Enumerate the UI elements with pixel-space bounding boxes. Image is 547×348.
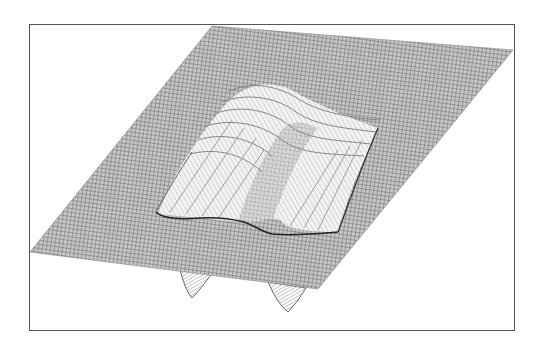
surface-plot-figure (0, 0, 547, 348)
surface-plot-canvas (0, 0, 547, 348)
